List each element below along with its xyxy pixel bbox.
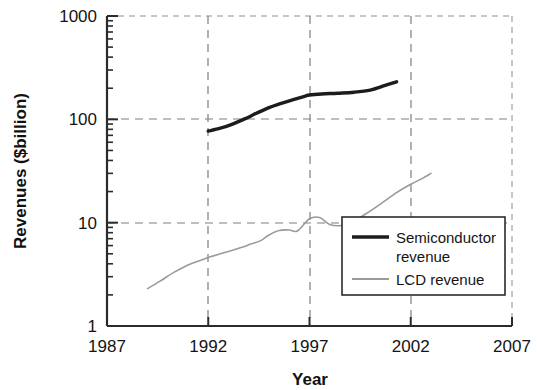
- chart-background: [0, 0, 537, 390]
- x-tick-label: 1987: [88, 337, 126, 356]
- y-tick-label: 1000: [59, 7, 97, 26]
- x-tick-label: 2002: [392, 337, 430, 356]
- revenues-line-chart: 1000100101 19871992199720022007 Revenues…: [0, 0, 537, 390]
- x-tick-label: 1997: [291, 337, 329, 356]
- legend-label-semiconductor-line1: Semiconductor: [396, 229, 496, 246]
- y-tick-label: 100: [69, 110, 97, 129]
- x-axis-title: Year: [292, 370, 328, 389]
- x-tick-label: 2007: [493, 337, 531, 356]
- y-tick-label: 10: [78, 214, 97, 233]
- y-tick-label: 1: [88, 317, 97, 336]
- legend-label-lcd: LCD revenue: [396, 271, 484, 288]
- y-axis-title: Revenues ($billion): [11, 93, 30, 249]
- legend-label-semiconductor-line2: revenue: [396, 248, 450, 265]
- x-tick-label: 1992: [189, 337, 227, 356]
- legend: Semiconductor revenue LCD revenue: [342, 217, 505, 295]
